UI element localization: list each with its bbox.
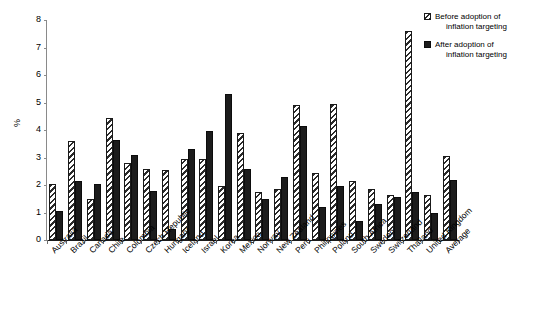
legend-label-after: After adoption ofinflation targeting [435, 40, 532, 60]
bar-group [234, 20, 253, 240]
bar-before [312, 173, 319, 240]
bar-group [309, 20, 328, 240]
bar-before [218, 186, 225, 240]
bar-group [197, 20, 216, 240]
bar-after [113, 140, 120, 240]
plot-area: 012345678 [46, 20, 459, 241]
bar-group [159, 20, 178, 240]
legend-before-line1: Before adoption of [435, 12, 500, 21]
bar-groups [47, 20, 459, 240]
bar-group [403, 20, 422, 240]
bar-after [131, 155, 138, 240]
bar-after [244, 169, 251, 241]
bar-group [328, 20, 347, 240]
y-tick-label: 7 [36, 42, 41, 53]
bar-chart: % 012345678 AustraliaBrazilCanadaChileCo… [0, 0, 536, 316]
bar-before [49, 184, 56, 240]
bar-before [405, 31, 412, 240]
bar-group [365, 20, 384, 240]
hatched-swatch-icon [424, 13, 431, 20]
legend-item-before: Before adoption ofinflation targeting [424, 12, 532, 32]
y-tick-label: 3 [36, 152, 41, 163]
bar-group [103, 20, 122, 240]
x-axis-labels: AustraliaBrazilCanadaChileColombiaCzech … [46, 246, 458, 316]
bar-group [47, 20, 66, 240]
bar-before [237, 133, 244, 240]
chart-legend: Before adoption ofinflation targeting Af… [424, 12, 532, 68]
y-tick-label: 2 [36, 179, 41, 190]
bar-group [291, 20, 310, 240]
bar-group [253, 20, 272, 240]
legend-after-line2: inflation targeting [435, 50, 532, 60]
bar-group [272, 20, 291, 240]
y-tick-label: 5 [36, 97, 41, 108]
y-tick-label: 0 [36, 234, 41, 245]
legend-label-before: Before adoption ofinflation targeting [435, 12, 532, 32]
bar-after [206, 131, 213, 240]
bar-after [188, 149, 195, 240]
legend-item-after: After adoption ofinflation targeting [424, 40, 532, 60]
bar-group [66, 20, 85, 240]
solid-swatch-icon [424, 41, 431, 48]
bar-before [87, 199, 94, 240]
bar-group [122, 20, 141, 240]
bar-after [94, 184, 101, 240]
bar-group [384, 20, 403, 240]
y-tick-label: 1 [36, 207, 41, 218]
y-tick-label: 8 [36, 14, 41, 25]
bar-before [199, 159, 206, 240]
bar-after [281, 177, 288, 240]
y-tick-label: 6 [36, 69, 41, 80]
bar-group [141, 20, 160, 240]
bar-group [347, 20, 366, 240]
y-axis-label: % [12, 114, 22, 132]
x-tick-mark [47, 240, 48, 244]
bar-after [225, 94, 232, 240]
bar-before [330, 104, 337, 240]
bar-before [106, 118, 113, 240]
legend-after-line1: After adoption of [435, 40, 494, 49]
bar-group [84, 20, 103, 240]
bar-group [216, 20, 235, 240]
y-tick-label: 4 [36, 124, 41, 135]
bar-before [124, 163, 131, 240]
bar-before [293, 105, 300, 240]
legend-before-line2: inflation targeting [435, 22, 532, 32]
